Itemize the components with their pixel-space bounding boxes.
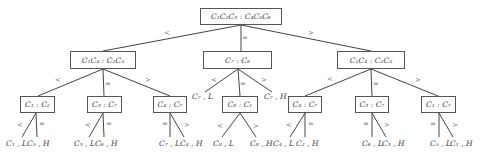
edge-op-eq: = (308, 120, 314, 128)
node-label: C₇ : C₈ (225, 56, 250, 65)
leaf-label: C₃ , L (74, 139, 95, 148)
edge-op-eq: = (430, 120, 436, 128)
edge-op-gt: > (452, 121, 458, 129)
edge-op-lt: < (17, 121, 23, 129)
edge-op-eq: = (373, 80, 379, 88)
edge-op-eq: = (105, 80, 111, 88)
edge-op-eq: = (363, 120, 369, 128)
edge-op-gt: > (253, 122, 259, 130)
edge-op-lt: < (164, 29, 170, 37)
leaf-label: C₆ , H (95, 139, 117, 148)
edge-op-lt: < (55, 76, 61, 84)
level3-node: C₄ : C₇ (288, 96, 322, 113)
edge-op-eq: = (162, 120, 168, 128)
leaf-label: C₇ , L (192, 92, 213, 101)
node-label: C₃ : C₇ (360, 100, 385, 109)
node-label: C₃ : C₇ (92, 100, 117, 109)
leaf-label: C₅ , L (430, 139, 451, 148)
edge-op-lt: < (327, 75, 333, 83)
level3-node: C₈ : C₁ (222, 96, 258, 113)
edge-op-gt: > (145, 76, 151, 84)
node-label: C₁ : C₇ (426, 100, 451, 109)
level2-node-right: C₁C₄ : C₂C₅ (337, 51, 405, 69)
leaf-label: C₁ , L (6, 139, 27, 148)
leaf-label: C₇ , H (264, 92, 286, 101)
node-label: C₁ : C₂ (25, 100, 50, 109)
leaf-label: C₇ , L (159, 139, 180, 148)
leaf-label: C₈ , L (213, 139, 234, 148)
edge-op-eq: = (106, 120, 112, 128)
leaf-label: C₆ , L (362, 139, 383, 148)
level3-node: C₃ : C₇ (355, 96, 389, 113)
node-label: C₁C₄ : C₂C₅ (82, 56, 124, 65)
level3-node: C₄ : C₇ (153, 96, 187, 113)
edge-op-eq: = (242, 34, 248, 42)
edge-op-lt: < (211, 76, 217, 84)
edge-op-lt: < (286, 121, 292, 129)
leaf-label: C₄ , H (180, 139, 202, 148)
node-label: C₄ : C₇ (293, 100, 318, 109)
edge-op-gt: > (261, 76, 267, 84)
leaf-label: C₅ , H (27, 139, 49, 148)
leaf-label: C₃ , H (382, 139, 404, 148)
edge-op-lt: < (217, 122, 223, 130)
leaf-label: C₈ , H (250, 139, 272, 148)
edge-op-gt: > (308, 29, 314, 37)
leaf-label: C₂ , H (296, 139, 318, 148)
node-label: C₁C₄ : C₂C₅ (350, 56, 392, 65)
level3-node: C₁ : C₇ (421, 96, 456, 113)
leaf-label: C₁ , H (450, 139, 472, 148)
level2-node-middle: C₇ : C₈ (203, 51, 272, 69)
node-label: C₈ : C₁ (228, 100, 253, 109)
edge-op-gt: > (415, 76, 421, 84)
level3-node: C₁ : C₂ (20, 96, 55, 113)
edge-op-eq: = (240, 80, 246, 88)
edge-op-gt: > (184, 121, 190, 129)
root-node-label: C₁C₂C₃ : C₄C₅C₆ (211, 12, 271, 21)
edge-op-eq: = (39, 120, 45, 128)
edge-op-gt: > (384, 121, 390, 129)
edge-op-lt: < (85, 121, 91, 129)
node-label: C₄ : C₇ (158, 100, 183, 109)
level3-node: C₃ : C₇ (87, 96, 122, 113)
root-node: C₁C₂C₃ : C₄C₅C₆ (200, 8, 282, 25)
leaf-label: C₄ , L (273, 139, 294, 148)
level2-node-left: C₁C₄ : C₂C₅ (70, 51, 136, 69)
